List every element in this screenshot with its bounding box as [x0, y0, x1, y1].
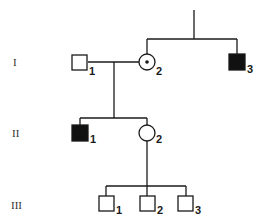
male-unaffected-symbol-III-2: [140, 196, 155, 211]
pedigree-diagram: I II III 1 2 3 1 2 1 2 3: [0, 0, 260, 219]
generation-label-2: II: [12, 127, 20, 139]
individual-number-III-1: 1: [116, 204, 122, 216]
generation-label-1: I: [13, 56, 17, 68]
female-unaffected-symbol-II-2: [139, 125, 155, 141]
carrier-dot-icon: [145, 60, 149, 64]
male-unaffected-symbol-III-1: [99, 196, 114, 211]
individual-number-III-3: 3: [195, 204, 201, 216]
generation-label-3: III: [11, 199, 22, 211]
individual-number-III-2: 2: [157, 204, 163, 216]
male-affected-symbol-I-3: [229, 54, 245, 70]
individual-number-I-2: 2: [156, 65, 162, 77]
individual-number-I-1: 1: [89, 65, 95, 77]
individual-number-I-3: 3: [247, 63, 253, 75]
individual-number-II-2: 2: [156, 133, 162, 145]
male-unaffected-symbol-I-1: [72, 55, 87, 70]
male-unaffected-symbol-III-3: [178, 196, 193, 211]
male-affected-symbol-II-1: [72, 125, 88, 141]
individual-number-II-1: 1: [90, 133, 96, 145]
